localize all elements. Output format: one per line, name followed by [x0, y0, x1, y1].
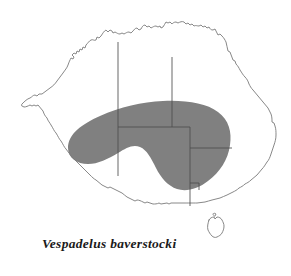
species-caption: Vespadelus baverstocki	[0, 236, 291, 252]
tasmania-coastline	[208, 213, 224, 237]
australia-map	[0, 0, 291, 276]
species-distribution-figure: Vespadelus baverstocki	[0, 0, 291, 276]
